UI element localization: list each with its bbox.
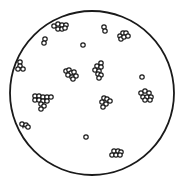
ring-marker (84, 135, 88, 139)
large-left-cluster (33, 94, 53, 111)
ring-marker (148, 98, 152, 102)
ring-marker (143, 98, 147, 102)
ring-marker (101, 105, 105, 109)
lower-left-edge-cluster (20, 122, 30, 129)
upper-center-single (81, 43, 85, 47)
center-left-cluster (64, 68, 78, 81)
ring-marker (26, 125, 30, 129)
ring-marker (108, 99, 112, 103)
ring-marker (126, 34, 130, 38)
bottom-cluster (110, 149, 123, 157)
ring-marker (140, 75, 144, 79)
right-single (140, 75, 144, 79)
ring-marker (45, 99, 49, 103)
lower-center-cluster (100, 96, 112, 109)
ring-marker (118, 153, 122, 157)
ring-marker (97, 76, 101, 80)
top-right-cluster (118, 31, 130, 41)
ring-marker (49, 95, 53, 99)
ring-marker (39, 107, 43, 111)
top-right-pair (102, 25, 107, 33)
upper-left-pair (42, 37, 47, 45)
ring-marker (103, 29, 107, 33)
ring-marker (21, 67, 25, 71)
circle-cluster-diagram (0, 0, 184, 187)
right-cluster (139, 89, 153, 102)
ring-marker (42, 41, 46, 45)
top-edge-cluster (52, 22, 68, 31)
ring-marker (71, 77, 75, 81)
ring-marker (81, 43, 85, 47)
marker-layer (16, 22, 153, 157)
ring-marker (16, 67, 20, 71)
bottom-single (84, 135, 88, 139)
ring-marker (63, 26, 67, 30)
center-cluster (93, 61, 103, 80)
diagram-canvas (0, 0, 184, 187)
